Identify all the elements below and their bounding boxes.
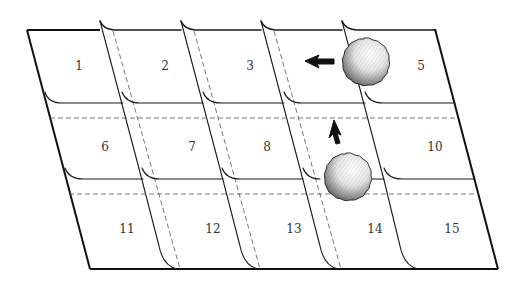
cell-label-11: 11 bbox=[119, 222, 134, 236]
cell-label-13: 13 bbox=[286, 222, 301, 236]
ball-upper-icon bbox=[342, 38, 390, 86]
cell-label-3: 3 bbox=[246, 59, 254, 73]
cell-label-12: 12 bbox=[205, 222, 220, 236]
row-dashed-guides bbox=[50, 118, 479, 194]
cell-label-7: 7 bbox=[188, 140, 196, 154]
cell-label-14: 14 bbox=[367, 222, 383, 236]
arrow-left-icon bbox=[305, 55, 334, 68]
cell-label-2: 2 bbox=[161, 59, 169, 73]
folded-grid-diagram: 1 2 3 5 6 7 8 10 11 12 13 14 15 bbox=[0, 0, 525, 285]
cell-label-1: 1 bbox=[75, 59, 83, 73]
cell-label-10: 10 bbox=[427, 140, 442, 154]
cell-label-6: 6 bbox=[101, 140, 109, 154]
column-dashed-guides bbox=[113, 31, 341, 269]
cell-label-5: 5 bbox=[417, 59, 425, 73]
row-folds bbox=[45, 92, 475, 179]
arrow-up-icon bbox=[329, 120, 341, 144]
cell-label-8: 8 bbox=[263, 140, 271, 154]
cell-label-15: 15 bbox=[444, 222, 459, 236]
ball-lower-icon bbox=[324, 153, 372, 201]
